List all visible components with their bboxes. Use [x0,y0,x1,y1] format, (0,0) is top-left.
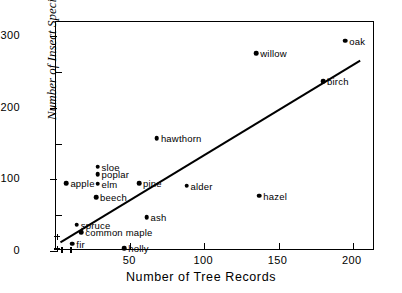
data-point-beech [94,195,99,200]
data-point-label-birch: birch [327,76,349,87]
x-tick-label-150: 150 [268,254,288,266]
data-point-label-alder: alder [191,180,213,191]
scatter-chart-figure: applesloepoplarelmbeechpinealderhawthorn… [0,0,402,293]
data-point-apple [64,181,69,186]
y-tick-0 [50,251,57,252]
y-axis-title: Number of Insect Species [44,0,60,138]
regression-line [56,22,375,251]
data-point-elm [95,181,100,186]
data-point-pine [137,181,142,186]
data-point-label-fir: fir [76,238,85,249]
y-minor-tick-150 [56,144,62,145]
data-point-willow [254,51,259,56]
data-point-label-hawthorn: hawthorn [161,132,202,143]
data-point-label-common-maple: common maple [85,227,152,238]
y-tick-label-200: 200 [0,101,20,113]
data-point-label-willow: willow [260,48,287,59]
y-minor-tick-50 [56,215,62,216]
data-point-hazel [257,194,262,199]
data-point-hawthorn [155,136,160,141]
data-point-holly [122,246,127,251]
x-tick-label-50: 50 [123,254,136,266]
y-tick-100 [50,179,57,180]
y-tick-label-0: 0 [13,244,20,256]
x-tick-100 [204,243,205,249]
data-point-label-hazel: hazel [263,190,287,201]
data-point-fir [70,242,75,247]
x-tick-label-200: 200 [342,254,362,266]
data-point-alder [184,184,189,189]
x-tick-50 [130,243,131,249]
data-point-marker-20 [68,247,74,253]
x-tick-label-100: 100 [194,254,214,266]
plot-area: applesloepoplarelmbeechpinealderhawthorn… [55,21,374,250]
data-point-sloe [95,164,100,169]
y-tick-label-300: 300 [0,29,20,41]
x-axis-title: Number of Tree Records [0,270,402,284]
data-point-label-holly: holly [128,243,149,254]
data-point-spruce [74,222,79,227]
data-point-label-beech: beech [100,192,127,203]
data-point-poplar [95,172,100,177]
data-point-label-ash: ash [151,212,167,223]
data-point-label-oak: oak [349,35,365,46]
data-point-ash [144,215,149,220]
x-tick-200 [353,243,354,249]
data-point-marker-19 [59,247,65,253]
data-point-marker-17 [54,234,60,240]
data-point-label-elm: elm [102,178,118,189]
data-point-label-apple: apple [70,178,94,189]
data-point-common-maple [79,230,84,235]
data-point-oak [343,38,348,43]
x-tick-150 [279,243,280,249]
data-point-label-pine: pine [143,178,162,189]
data-point-birch [321,79,326,84]
y-tick-label-100: 100 [0,172,20,184]
